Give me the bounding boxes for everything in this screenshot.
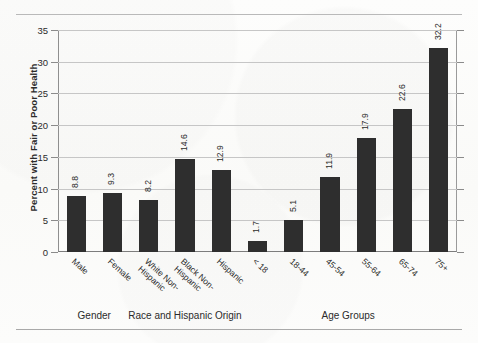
y-axis-tick-mark-right <box>457 220 464 221</box>
bar-value-label: 8.8 <box>70 176 80 188</box>
bar <box>320 177 339 252</box>
y-axis-tick-mark-right <box>457 93 464 94</box>
x-axis-category-label: 65-74 <box>396 257 419 279</box>
bar-group: 9.3Female <box>103 30 122 252</box>
y-axis-tick-label: 0 <box>43 247 48 258</box>
bar-value-label: 5.1 <box>288 200 298 212</box>
y-axis-tick-label: 10 <box>37 183 48 194</box>
bar-group: 1.7< 18 <box>248 30 267 252</box>
y-axis-tick-mark-right <box>457 189 464 190</box>
bar-value-label: 22.6 <box>397 84 407 101</box>
y-axis-tick-mark-right <box>457 30 464 31</box>
bar-group: 22.665-74 <box>393 30 412 252</box>
x-axis-category-label-line: 75+ <box>432 257 449 274</box>
y-axis-tick-mark <box>51 62 58 63</box>
bar <box>393 109 412 252</box>
x-axis-category-label-line: 18-44 <box>287 257 310 279</box>
bar <box>429 48 448 252</box>
bar-group: 5.118-44 <box>284 30 303 252</box>
bar-group: 32.275+ <box>429 30 448 252</box>
bar <box>212 170 231 252</box>
y-axis-tick-mark-right <box>457 62 464 63</box>
y-axis-tick-mark <box>51 220 58 221</box>
group-caption-age-groups: Age Groups <box>321 310 374 321</box>
bar <box>67 196 86 252</box>
y-axis-tick-label: 25 <box>37 88 48 99</box>
bar-chart-figure: Percent with Fair or Poor Health 0510152… <box>0 0 478 343</box>
x-axis-category-label: Black Non-Hispanic <box>172 257 216 299</box>
x-axis-category-label: Female <box>106 257 134 283</box>
bar-group: 8.8Male <box>67 30 86 252</box>
bar <box>284 220 303 252</box>
bars-layer: 8.8Male9.3Female8.2White Non-Hispanic14.… <box>58 30 457 252</box>
group-caption-race-and-hispanic-origin: Race and Hispanic Origin <box>128 310 241 321</box>
bottom-rule-divider <box>16 329 462 330</box>
bar <box>357 138 376 252</box>
bar-group: 12.9Hispanic <box>212 30 231 252</box>
y-axis-tick-mark-right <box>457 125 464 126</box>
bar-value-label: 12.9 <box>215 145 225 162</box>
y-axis-tick-label: 30 <box>37 56 48 67</box>
bar-value-label: 1.7 <box>251 221 261 233</box>
bar-value-label: 32.2 <box>433 23 443 40</box>
x-axis-category-label: 55-64 <box>360 257 383 279</box>
bar-group: 17.955-64 <box>357 30 376 252</box>
bar <box>139 200 158 252</box>
x-axis-category-label-line: 55-64 <box>360 257 383 279</box>
y-axis-tick-mark <box>51 252 58 253</box>
x-axis-category-label: Hispanic <box>215 257 246 286</box>
y-axis-tick-label: 35 <box>37 25 48 36</box>
y-axis-tick-mark-right <box>457 252 464 253</box>
x-axis-category-label-line: Male <box>70 257 90 277</box>
y-axis-tick-mark-right <box>457 157 464 158</box>
bar-group: 11.945-54 <box>320 30 339 252</box>
y-axis-tick-label: 15 <box>37 151 48 162</box>
x-axis-category-label-line: Hispanic <box>215 257 246 286</box>
top-rule-divider <box>16 14 462 15</box>
y-axis-tick-mark <box>51 93 58 94</box>
y-axis-tick-label: 20 <box>37 120 48 131</box>
x-axis-category-label: Male <box>70 257 90 277</box>
x-axis-category-label: White Non-Hispanic <box>136 257 181 300</box>
bar-value-label: 11.9 <box>324 152 334 168</box>
bar <box>248 241 267 252</box>
bar <box>103 193 122 252</box>
y-axis-tick-mark <box>51 189 58 190</box>
y-axis-tick-mark <box>51 157 58 158</box>
plot-area: 05101520253035 8.8Male9.3Female8.2White … <box>58 30 457 252</box>
x-axis-category-label: 75+ <box>432 257 449 274</box>
x-axis-category-label-line: 65-74 <box>396 257 419 279</box>
x-axis-category-label-line: 45-54 <box>324 257 347 279</box>
bar <box>175 159 194 252</box>
bar-value-label: 14.6 <box>179 135 189 152</box>
bar-group: 8.2White Non-Hispanic <box>139 30 158 252</box>
y-axis-tick-mark <box>51 125 58 126</box>
y-axis-tick-mark <box>51 30 58 31</box>
group-caption-gender: Gender <box>78 310 111 321</box>
x-axis-category-label-line: < 18 <box>251 257 270 275</box>
x-axis-category-label: 45-54 <box>324 257 347 279</box>
x-axis-category-label: < 18 <box>251 257 270 275</box>
bar-value-label: 9.3 <box>106 173 116 185</box>
x-axis-category-label-line: Female <box>106 257 134 283</box>
bar-value-label: 8.2 <box>143 180 153 192</box>
bar-group: 14.6Black Non-Hispanic <box>175 30 194 252</box>
bar-value-label: 17.9 <box>360 114 370 131</box>
x-axis-category-label: 18-44 <box>287 257 310 279</box>
y-axis-tick-label: 5 <box>43 215 48 226</box>
